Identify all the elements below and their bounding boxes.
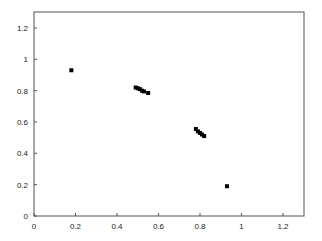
y-tick-label: 0 (24, 212, 29, 221)
y-tick-label: 0.6 (17, 118, 29, 127)
scatter-chart: 00.20.40.60.811.2 00.20.40.60.811.2 (0, 0, 322, 241)
data-points (69, 68, 229, 188)
data-point (69, 68, 73, 72)
data-point (202, 134, 206, 138)
y-tick-label: 0.8 (17, 87, 29, 96)
x-tick-label: 0.4 (111, 222, 123, 231)
y-tick-label: 0.4 (17, 149, 29, 158)
data-point (142, 89, 146, 93)
plot-frame (34, 12, 304, 216)
y-tick-label: 1 (24, 55, 29, 64)
x-tick-label: 0.2 (70, 222, 82, 231)
y-tick-label: 0.2 (17, 181, 29, 190)
x-tick-label: 0.6 (153, 222, 165, 231)
data-point (225, 184, 229, 188)
x-tick-label: 0.8 (194, 222, 206, 231)
x-tick-label: 0 (32, 222, 37, 231)
x-tick-label: 1 (239, 222, 244, 231)
data-point (146, 91, 150, 95)
x-tick-label: 1.2 (277, 222, 289, 231)
y-tick-label: 1.2 (17, 24, 29, 33)
